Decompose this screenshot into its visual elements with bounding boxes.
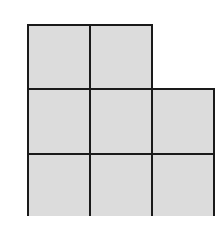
grid-cell-r2-c1 xyxy=(27,88,91,155)
grid-cell-r3-c3 xyxy=(151,153,215,216)
grid-cell-r1-c2 xyxy=(89,24,153,90)
grid-cell-r1-c1 xyxy=(27,24,91,90)
grid-cell-r3-c1 xyxy=(27,153,91,216)
grid-cell-r2-c3 xyxy=(151,88,215,155)
grid-cell-r3-c2 xyxy=(89,153,153,216)
grid-cell-r2-c2 xyxy=(89,88,153,155)
